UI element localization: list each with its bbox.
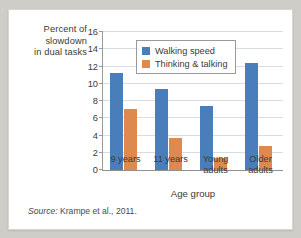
y-axis-title: Percent of slowdown in dual tasks: [15, 24, 87, 59]
legend-label: Thinking & talking: [155, 59, 228, 69]
figure-card: Percent of slowdown in dual tasks 024681…: [8, 9, 293, 230]
bar-group: [238, 32, 283, 170]
y-tick-label: 14: [88, 44, 98, 54]
y-axis-title-line-2: slowdown: [15, 36, 87, 48]
legend-swatch: [142, 47, 150, 55]
y-tick-label: 4: [93, 131, 98, 141]
x-tick-label: 9 years: [103, 154, 148, 165]
x-tick-label: Young adults: [193, 154, 238, 176]
y-tick-label: 8: [93, 96, 98, 106]
chart-legend: Walking speedThinking & talking: [136, 40, 236, 74]
source-citation: Krampe et al., 2011.: [60, 206, 137, 216]
y-axis-title-line-1: Percent of: [15, 24, 87, 36]
y-axis-title-line-3: in dual tasks: [15, 47, 87, 59]
source-note: Source: Krampe et al., 2011.: [28, 206, 137, 216]
legend-item: Walking speed: [142, 44, 228, 57]
legend-swatch: [142, 60, 150, 68]
legend-label: Walking speed: [155, 46, 215, 56]
legend-item: Thinking & talking: [142, 57, 228, 70]
y-tick-label: 10: [88, 79, 98, 89]
y-tick-label: 16: [88, 27, 98, 37]
y-tick-label: 6: [93, 113, 98, 123]
y-tick-label: 2: [93, 148, 98, 158]
y-tick-label: 12: [88, 62, 98, 72]
y-tick-label: 0: [93, 165, 98, 175]
x-tick-label: Older adults: [238, 154, 283, 176]
x-axis-title: Age group: [103, 188, 283, 199]
source-label: Source:: [28, 206, 58, 216]
x-tick-label: 11 years: [148, 154, 193, 165]
